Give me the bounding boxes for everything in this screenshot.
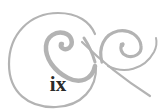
page-number: ix bbox=[42, 72, 74, 96]
swirl-flourish-icon bbox=[0, 0, 161, 111]
